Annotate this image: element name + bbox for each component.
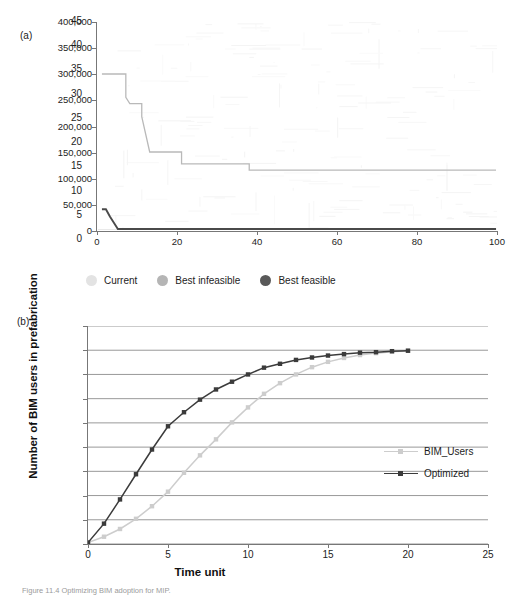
- panel-b-y-tick-label: 40: [52, 40, 82, 50]
- panel-b-y-tick-label: 30: [52, 89, 82, 99]
- panel-a-x-tickmark: [177, 231, 178, 235]
- panel-a-legend-item: Best infeasible: [157, 275, 240, 286]
- panel-b-y-tick-label: 15: [52, 161, 82, 171]
- panel-b-legend: BIM_UsersOptimized: [384, 440, 504, 484]
- panel-b-x-tickmark: [408, 544, 409, 548]
- panel-b-x-tickmark: [88, 544, 89, 548]
- legend-dot-icon: [260, 275, 271, 286]
- figure-caption: Figure 11.4 Optimizing BIM adoption for …: [22, 586, 492, 595]
- panel-a-legend-label: Current: [104, 275, 137, 286]
- panel-b-x-tickmark: [168, 544, 169, 548]
- panel-b-y-tick-label: 10: [52, 186, 82, 196]
- panel-b-markers-bim-users: [88, 349, 410, 544]
- panel-b-x-axis-line: [87, 544, 489, 545]
- figure-container: (a) 050,000100,000150,000200,000250,0003…: [0, 0, 512, 598]
- panel-a-x-tick-label: 0: [94, 236, 99, 247]
- panel-b-markers-optimized: [88, 349, 410, 544]
- panel-a-legend-label: Best feasible: [278, 275, 335, 286]
- panel-b-y-tick-label: 5: [52, 210, 82, 220]
- panel-a-x-tickmark: [417, 231, 418, 235]
- panel-b-x-tickmark: [248, 544, 249, 548]
- panel-b-x-tick-label: 25: [482, 549, 493, 560]
- panel-b-y-tick-label: 25: [52, 113, 82, 123]
- panel-a-x-tick-label: 80: [412, 236, 423, 247]
- panel-b-x-tick-label: 15: [322, 549, 333, 560]
- panel-b-x-axis-title: Time unit: [0, 566, 400, 578]
- panel-b-x-tickmark: [328, 544, 329, 548]
- panel-b-legend-label: BIM_Users: [424, 446, 473, 457]
- panel-a-x-tick-label: 40: [252, 236, 263, 247]
- panel-b-y-tick-label: 20: [52, 137, 82, 147]
- panel-a-x-axis-line: [96, 231, 498, 232]
- panel-b-x-tick-label: 20: [402, 549, 413, 560]
- panel-b-y-axis-labels: 051015202530354045: [52, 0, 82, 285]
- panel-b-x-tick-label: 10: [242, 549, 253, 560]
- panel-a-legend-label: Best infeasible: [175, 275, 240, 286]
- panel-b-y-tick-label: 35: [52, 64, 82, 74]
- legend-line-swatch-icon: [384, 468, 418, 478]
- panel-a-scan-noise: [110, 22, 497, 230]
- panel-a-x-tickmark: [497, 231, 498, 235]
- panel-b-x-tick-label: 0: [85, 549, 91, 560]
- panel-a-plot-area: [97, 22, 497, 230]
- legend-dot-icon: [157, 275, 168, 286]
- legend-line-swatch-icon: [384, 446, 418, 456]
- panel-b-legend-label: Optimized: [424, 468, 469, 479]
- panel-a-series-best-feasible: [102, 209, 496, 229]
- panel-b-series-optimized: [88, 351, 408, 543]
- panel-a-legend: CurrentBest infeasibleBest feasible: [86, 271, 356, 289]
- panel-b-plot-area: [88, 326, 488, 544]
- legend-dot-icon: [86, 275, 97, 286]
- panel-a-x-tickmark: [337, 231, 338, 235]
- panel-b-y-tick-label: 0: [52, 234, 82, 244]
- panel-b-x-axis-labels: 0510152025: [0, 549, 512, 565]
- panel-a-x-tickmark: [257, 231, 258, 235]
- panel-a-legend-item: Best feasible: [260, 275, 335, 286]
- panel-a-legend-item: Current: [86, 275, 137, 286]
- panel-b-gridlines: [88, 326, 488, 544]
- panel-b-y-axis-title: Number of BIM users in prefabrication: [27, 266, 39, 486]
- panel-a-x-tick-label: 20: [172, 236, 183, 247]
- panel-a-x-tick-label: 100: [489, 236, 505, 247]
- panel-b-legend-item: BIM_Users: [384, 440, 504, 462]
- panel-a-x-tickmark: [97, 231, 98, 235]
- panel-b-x-tick-label: 5: [165, 549, 171, 560]
- panel-b-legend-item: Optimized: [384, 462, 504, 484]
- panel-b-series-bim-users: [88, 351, 408, 543]
- panel-a-x-tick-label: 60: [332, 236, 343, 247]
- panel-b-x-tickmark: [488, 544, 489, 548]
- panel-b-y-tick-label: 45: [52, 16, 82, 26]
